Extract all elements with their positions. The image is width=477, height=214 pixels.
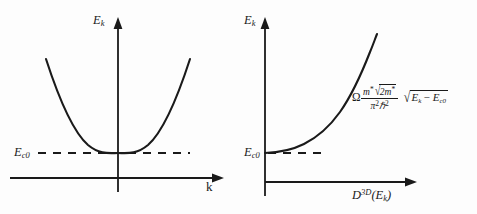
dos-x-axis-label: D3D(Ek) [352,188,391,203]
ec0-label-E: E [14,145,22,159]
dos-formula-annotation: Ω m*√2m* π2ℏ2 √ Ek−Ec0 [352,84,448,111]
dos-plot-panel: Ek D3D(Ek) Ec0 Ω m*√2m* π2ℏ2 √ Ek−Ec0 [240,0,477,214]
dispersion-x-axis-label: k [206,180,213,193]
numerator-m: m [363,87,370,97]
radical-sign-icon: √ [404,90,411,106]
formula-fraction: m*√2m* π2ℏ2 [361,84,398,111]
ec0-label-subscript: c0 [22,150,30,160]
y-label-E: E [244,13,252,27]
sqrt-star: * [391,85,395,94]
x-label-superscript-3d: 3D [361,187,371,197]
y-axis-dos [261,17,270,196]
x-label-k: k [206,179,213,194]
formula-radical: √ Ek−Ec0 [403,90,448,106]
denominator-hbar-exponent: 2 [385,99,389,108]
x-axis-dispersion [10,174,224,183]
radical-E-c0-subscript: c0 [439,97,446,105]
y-label-subscript: k [252,18,256,28]
x-label-paren-close: ) [387,188,391,202]
y-label-E: E [93,13,101,27]
ec0-label-E: E [244,145,252,159]
y-axis-dispersion [114,17,123,192]
x-axis-dos [265,178,417,187]
numerator-sqrt-body: 2m* [379,84,396,98]
formula-omega: Ω [352,92,361,104]
formula-numerator: m*√2m* [361,84,398,99]
numerator-sqrt: √2m* [374,84,397,98]
x-label-D: D [352,188,361,202]
y-label-subscript: k [101,18,105,28]
dispersion-y-axis-label: Ek [93,14,104,28]
radical-E-k-subscript: k [418,97,421,105]
dos-y-axis-label: Ek [244,14,255,28]
dos-band-edge-label: Ec0 [244,146,260,160]
formula-denominator: π2ℏ2 [368,99,390,111]
radical-minus: − [423,91,430,103]
dispersion-plot-svg [0,0,240,214]
ec0-label-subscript: c0 [252,150,260,160]
dispersion-band-edge-label: Ec0 [14,146,30,160]
sqrt-sign-icon: √ [375,84,380,98]
dispersion-plot-panel: Ek k Ec0 [0,0,240,214]
figure-container: Ek k Ec0 Ek [0,0,477,214]
radical-body: Ek−Ec0 [410,90,448,106]
